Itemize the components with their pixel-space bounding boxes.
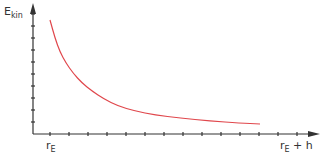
chart-svg: [0, 0, 328, 158]
energy-curve: [50, 20, 260, 124]
x-tick-label-end: rE + h: [280, 140, 313, 154]
x-tick-label-start: rE: [46, 140, 56, 154]
x-axis-arrow-icon: [308, 131, 320, 137]
y-axis-label: Ekin: [4, 6, 23, 20]
y-axis-arrow-icon: [30, 3, 36, 14]
